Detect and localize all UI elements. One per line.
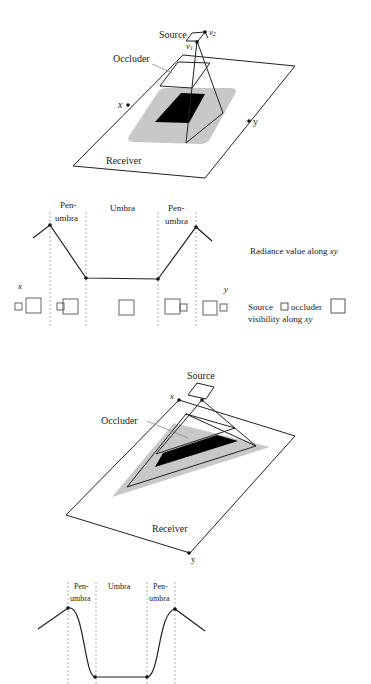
label-source-2: Source — [187, 370, 215, 381]
legend-source-square — [281, 303, 288, 310]
legend-occluder-square — [331, 299, 345, 313]
label-penumbra-left-2a: Pen- — [74, 582, 89, 591]
visibility-caption-1a: Source — [248, 302, 273, 312]
profile-point-1b — [84, 276, 88, 280]
plot-1-radiance-linear: Pen- umbra Umbra Pen- umbra x y Radiance… — [15, 200, 345, 328]
profile-point-1c — [156, 277, 160, 281]
label-y-1: y — [253, 116, 258, 127]
label-umbra-1: Umbra — [110, 203, 135, 213]
vis-source-5 — [220, 304, 227, 311]
vis-source-4 — [180, 304, 187, 311]
radiance-profile-2 — [38, 608, 205, 677]
label-penumbra-right-2b: umbra — [149, 594, 170, 603]
profile-point-1d — [194, 225, 198, 229]
radiance-profile-1 — [33, 225, 212, 279]
point-x-2 — [177, 398, 181, 402]
figure-1-rect-occluder: Source v2 v1 Occluder x y Receiver — [73, 27, 295, 178]
label-umbra-2: Umbra — [108, 582, 131, 591]
source-2 — [188, 383, 214, 399]
point-y-1 — [247, 119, 251, 123]
vis-source-1 — [15, 303, 22, 310]
profile-point-2d — [173, 607, 177, 611]
profile-point-1a — [48, 223, 52, 227]
label-x-plot1: x — [17, 281, 22, 291]
label-occluder-1: Occluder — [113, 53, 150, 64]
point-source-vertex-2 — [200, 398, 204, 402]
label-receiver-1: Receiver — [106, 155, 142, 166]
label-y-2: y — [191, 554, 196, 564]
label-y-plot1: y — [223, 284, 228, 294]
vertex-v1 — [195, 40, 199, 44]
figure-2-triangle-occluder: Source Occluder x Receiver y — [66, 370, 295, 564]
profile-point-2b — [93, 675, 97, 679]
label-penumbra-left-1a: Pen- — [60, 200, 77, 210]
profile-point-2c — [145, 675, 149, 679]
label-v2: v2 — [209, 27, 216, 37]
label-penumbra-right-1a: Pen- — [168, 203, 185, 213]
label-penumbra-right-2a: Pen- — [153, 582, 168, 591]
vis-occluder-2 — [63, 299, 78, 314]
radiance-caption: Radiance value along xy — [250, 246, 338, 256]
point-x-1 — [126, 103, 130, 107]
label-receiver-2: Receiver — [152, 523, 188, 534]
vertex-v2 — [203, 30, 207, 34]
vis-occluder-3 — [119, 300, 134, 315]
source-1 — [186, 32, 205, 41]
visibility-squares — [15, 298, 227, 315]
vis-occluder-5 — [203, 301, 217, 315]
vis-occluder-4 — [165, 299, 180, 314]
label-v1: v1 — [186, 41, 193, 51]
label-penumbra-left-1b: umbra — [55, 213, 78, 223]
label-x-2: x — [169, 391, 174, 401]
vis-occluder-1 — [26, 298, 41, 313]
visibility-caption-2: visibility along xy — [248, 314, 313, 324]
label-penumbra-left-2b: umbra — [70, 594, 91, 603]
shadow-diagram-canvas: Source v2 v1 Occluder x y Receiver Pen- … — [0, 0, 371, 684]
label-occluder-2: Occluder — [101, 415, 138, 426]
penumbra-region-2 — [112, 423, 270, 497]
plot-2-radiance-smooth: Pen- umbra Umbra Pen- umbra — [38, 582, 205, 684]
visibility-caption-1b: occluder — [291, 302, 322, 312]
label-penumbra-right-1b: umbra — [165, 216, 188, 226]
label-x-1: x — [117, 99, 123, 110]
label-source-1: Source — [159, 29, 187, 40]
occluder-1 — [160, 62, 210, 88]
profile-point-2a — [66, 606, 70, 610]
